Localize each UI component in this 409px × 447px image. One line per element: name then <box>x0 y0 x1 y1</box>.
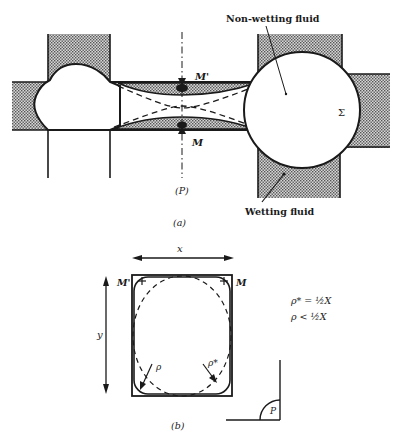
equation-rho-star: ρ* = ½X <box>290 295 333 306</box>
label-m-prime: M' <box>194 71 209 82</box>
label-non-wetting-fluid: Non-wetting fluid <box>226 13 320 24</box>
diagram-canvas: M' M Σ Non-wetting fluid Wetting fluid <box>0 0 409 447</box>
rho-radius-arrow <box>140 364 152 390</box>
y-dimension-arrow <box>103 276 109 394</box>
caption-a: (a) <box>173 217 186 228</box>
label-rho: ρ <box>155 362 162 372</box>
figure-b: x y M' M ρ ρ* <box>96 243 333 431</box>
label-sigma: Σ <box>338 107 345 118</box>
caption-b: (b) <box>171 420 185 431</box>
label-x: x <box>177 243 183 254</box>
label-m-prime-b: M' <box>116 277 130 288</box>
label-rho-star: ρ* <box>207 358 218 368</box>
label-m: M <box>191 137 204 148</box>
corner-marks <box>138 277 228 285</box>
label-m-b: M <box>235 277 247 288</box>
equation-rho: ρ < ½X <box>290 311 328 322</box>
label-wetting-fluid: Wetting fluid <box>244 206 315 217</box>
label-y: y <box>96 329 103 340</box>
non-wetting-leader-dot <box>285 93 287 95</box>
throat-join <box>252 85 262 128</box>
interface-rho-star <box>133 276 231 396</box>
figure-a: M' M Σ Non-wetting fluid Wetting fluid <box>12 13 390 228</box>
label-angle-p: P <box>269 406 277 416</box>
label-plane-p: (P) <box>175 185 189 196</box>
x-dimension-arrow <box>132 255 234 261</box>
interface-rho <box>134 277 230 394</box>
wetting-leader-dot <box>282 172 285 175</box>
